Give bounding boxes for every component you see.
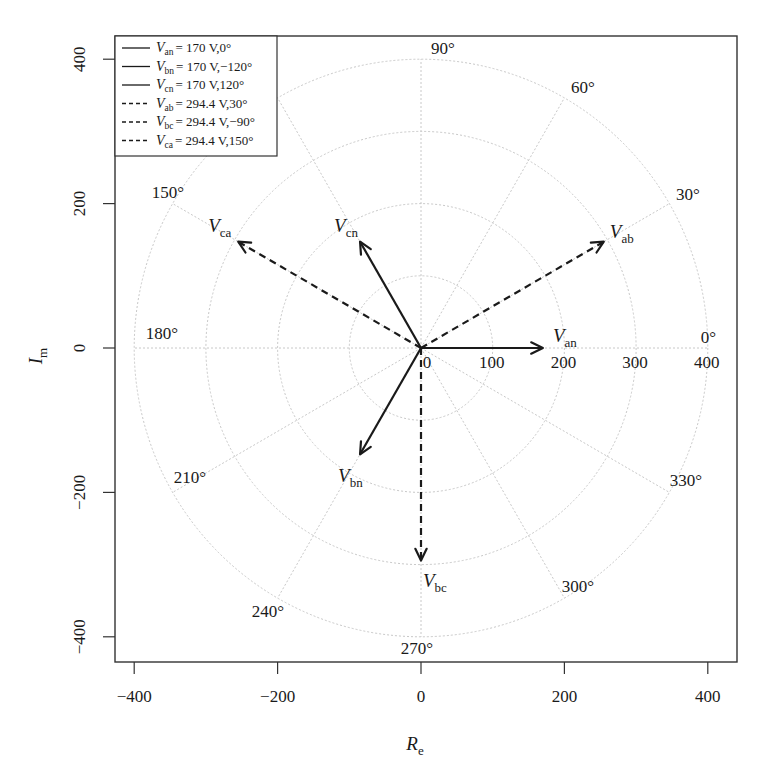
phasor-label-an: Van [553, 325, 577, 350]
x-tick-label: 0 [417, 687, 426, 706]
phasor-bn [360, 348, 421, 454]
legend: Van= 170 V,0°Vbn= 170 V,−120°Vcn= 170 V,… [115, 36, 277, 156]
phasor-bc [415, 348, 426, 561]
angle-label: 270° [401, 639, 433, 658]
y-tick-label: 200 [70, 191, 89, 217]
x-tick-label: 200 [552, 687, 578, 706]
radial-label: 200 [551, 353, 577, 372]
x-tick-label: −200 [260, 687, 295, 706]
y-tick-label: −200 [70, 475, 89, 510]
phasor-label-bc: Vbc [423, 570, 447, 595]
radial-label: 400 [694, 353, 720, 372]
angle-label: 330° [670, 471, 702, 490]
angle-label: 180° [146, 324, 178, 343]
arrowhead-icon [591, 242, 604, 253]
phasor-label-bn: Vbn [338, 465, 363, 490]
grid-spoke-300 [421, 348, 564, 598]
angle-label: 30° [676, 185, 700, 204]
radial-label: 300 [622, 353, 648, 372]
grid-spoke-60 [421, 98, 564, 348]
radial-label: 100 [479, 353, 505, 372]
phasor-an [421, 342, 543, 353]
arrowhead-icon [238, 242, 251, 253]
phasor-label-ab: Vab [610, 221, 634, 246]
y-axis-title: Im [25, 348, 50, 365]
angle-label: 90° [431, 39, 455, 58]
y-tick-label: −400 [70, 619, 89, 654]
radial-label: 0 [423, 353, 432, 372]
angle-label: 240° [252, 602, 284, 621]
x-axis-title: Re [405, 733, 424, 758]
angle-label: 210° [174, 468, 206, 487]
y-tick-label: 400 [70, 46, 89, 71]
y-axis-ticks: −400−2000200400 [70, 46, 115, 654]
angle-label: 300° [562, 577, 594, 596]
y-tick-label: 0 [70, 344, 89, 353]
phasor-line [360, 242, 421, 348]
radial-labels: 0100200300400 [423, 353, 720, 372]
angle-label: 0° [701, 328, 716, 347]
phasor-cn [360, 242, 421, 348]
phasor-line [360, 348, 421, 454]
x-axis-ticks: −400−2000200400 [117, 662, 721, 706]
x-tick-label: 400 [695, 687, 721, 706]
phasor-chart: 0°30°60°90°150°180°210°240°270°300°330° … [0, 0, 770, 783]
angle-label: 60° [571, 78, 595, 97]
phasor-label-ca: Vca [208, 215, 231, 240]
x-tick-label: −400 [117, 687, 152, 706]
angle-label: 150° [152, 183, 184, 202]
